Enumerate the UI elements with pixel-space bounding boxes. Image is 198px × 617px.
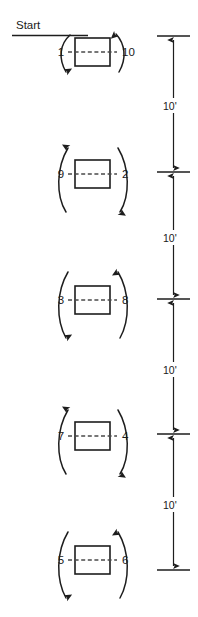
station-1-left-cone-label: 1 xyxy=(58,46,64,58)
station-1-right-cone-label: 10 xyxy=(122,46,135,58)
station-4-right-arc-arrow xyxy=(118,410,127,474)
station-3-left-cone-label: 3 xyxy=(58,294,64,306)
station-3-right-cone-label: 8 xyxy=(122,294,128,306)
dimension-segment-2: 10' xyxy=(161,176,186,295)
station-5-left-cone-label: 5 xyxy=(58,554,64,566)
station-3: 3 8 xyxy=(58,272,129,338)
dimension-segment-1: 10' xyxy=(161,40,186,168)
station-2: 9 2 xyxy=(58,148,129,212)
driving-course-diagram: Start 1 10 9 2 3 8 xyxy=(0,0,198,617)
dimension-segment-3: 10' xyxy=(161,303,186,430)
station-2-left-cone-label: 9 xyxy=(58,168,64,180)
dimension-segment-4-label: 10' xyxy=(163,499,177,511)
station-4-left-arc-arrow xyxy=(59,410,68,474)
start-marker: Start xyxy=(12,19,88,36)
station-4-left-cone-label: 7 xyxy=(58,430,64,442)
diagram-canvas: Start 1 10 9 2 3 8 xyxy=(0,0,198,617)
station-1: 1 10 xyxy=(58,34,135,72)
dimension-scale: 10' 10' 10' 10' xyxy=(157,36,190,570)
station-4: 7 4 xyxy=(58,410,129,474)
dimension-segment-3-label: 10' xyxy=(163,364,177,376)
station-5: 5 6 xyxy=(58,532,129,598)
start-label: Start xyxy=(16,19,41,31)
station-4-right-cone-label: 4 xyxy=(122,430,129,442)
dimension-segment-4: 10' xyxy=(161,438,186,566)
dimension-segment-1-label: 10' xyxy=(163,100,177,112)
station-2-right-arc-arrow xyxy=(118,148,127,212)
dimension-segment-2-label: 10' xyxy=(163,232,177,244)
station-2-left-arc-arrow xyxy=(59,148,68,212)
station-5-right-cone-label: 6 xyxy=(122,554,128,566)
station-2-right-cone-label: 2 xyxy=(122,168,128,180)
